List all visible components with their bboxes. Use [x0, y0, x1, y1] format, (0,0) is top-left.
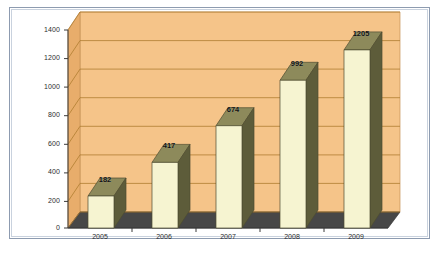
y-tick-label-1400: 1400 [30, 26, 60, 33]
y-tick-label-1000: 1000 [30, 83, 60, 90]
bar-2009-side [370, 32, 382, 228]
y-axis [64, 30, 68, 228]
y-tick-label-800: 800 [30, 111, 60, 118]
y-tick-label-200: 200 [30, 197, 60, 204]
data-label-2008: 992 [284, 59, 310, 68]
x-tick-label-2009: 2009 [333, 233, 379, 240]
bar-2007[interactable] [216, 108, 254, 228]
x-tick-label-2008: 2008 [269, 233, 315, 240]
y-tick-label-600: 600 [30, 140, 60, 147]
x-axis [68, 228, 388, 232]
bar-2007-front [216, 126, 242, 228]
bar-2005-front [88, 196, 114, 228]
bar-2009[interactable] [344, 32, 382, 228]
y-tick-label-400: 400 [30, 168, 60, 175]
data-label-2006: 417 [156, 141, 182, 150]
y-tick-label-1200: 1200 [30, 54, 60, 61]
x-tick-label-2006: 2006 [141, 233, 187, 240]
bar-2009-front [344, 50, 370, 228]
x-tick-label-2005: 2005 [77, 233, 123, 240]
y-tick-label-0: 0 [30, 224, 60, 231]
data-label-2007: 674 [220, 105, 246, 114]
bar-2008-side [306, 62, 318, 228]
bar-chart-3d [0, 0, 441, 253]
data-label-2009: 1205 [346, 29, 376, 38]
bar-2006-front [152, 162, 178, 228]
plot-left-wall [68, 12, 80, 228]
bar-2006[interactable] [152, 144, 190, 228]
bar-2007-side [242, 108, 254, 228]
x-tick-label-2007: 2007 [205, 233, 251, 240]
chart-page: 1400 1200 1000 800 600 400 200 0 2005 20… [0, 0, 441, 253]
bar-2008-front [280, 80, 306, 228]
bar-2008[interactable] [280, 62, 318, 228]
data-label-2005: 182 [92, 175, 118, 184]
